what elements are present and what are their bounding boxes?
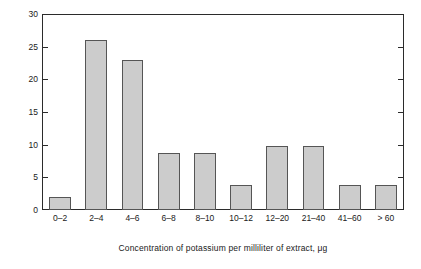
x-tick-label: 8–10 (187, 214, 223, 223)
x-tick-label: 21–40 (295, 214, 331, 223)
chart-figure: Proportion of samples, % 051015202530 0–… (0, 0, 421, 269)
y-tick-label: 10 (29, 140, 38, 149)
y-tick-label: 30 (29, 10, 38, 19)
bar (158, 153, 180, 210)
y-tick-label: 15 (29, 108, 38, 117)
bar (49, 197, 71, 210)
x-tick-label: 41–60 (332, 214, 368, 223)
y-tick-label: 25 (29, 42, 38, 51)
x-tick-label: 10–12 (223, 214, 259, 223)
x-tick-label: 2–4 (78, 214, 114, 223)
x-tick-label: > 60 (368, 214, 404, 223)
x-tick-label: 12–20 (259, 214, 295, 223)
bar (230, 185, 252, 210)
bar (122, 60, 144, 210)
x-tick-label: 0–2 (42, 214, 78, 223)
bar-series (42, 14, 404, 210)
bar (375, 185, 397, 210)
bar (85, 40, 107, 210)
x-tick-label: 6–8 (151, 214, 187, 223)
x-tick-label: 4–6 (114, 214, 150, 223)
y-tick-label: 20 (29, 75, 38, 84)
bar (303, 146, 325, 210)
bar (339, 185, 361, 210)
y-tick-label: 5 (33, 173, 38, 182)
x-axis-title: Concentration of potassium per millilite… (42, 243, 404, 253)
bar (194, 153, 216, 210)
bar (266, 146, 288, 210)
y-tick-label: 0 (33, 206, 38, 215)
